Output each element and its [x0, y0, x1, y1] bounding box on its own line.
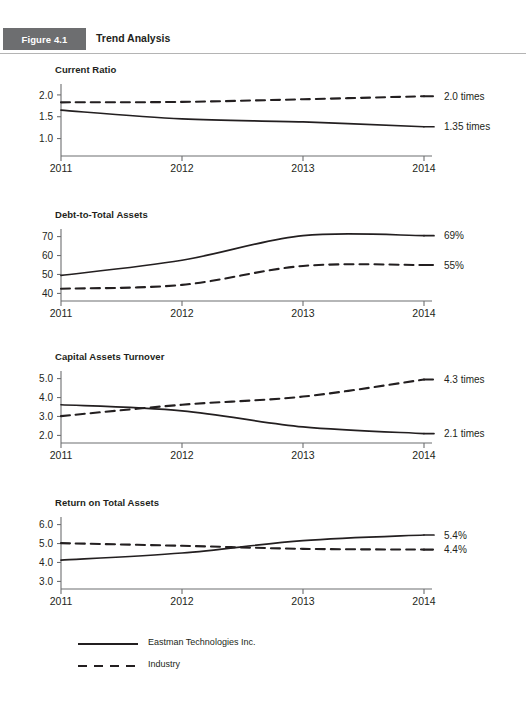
y-axis-tick-label: 2.0	[39, 430, 53, 441]
series-line-industry	[61, 264, 424, 288]
header-divider	[0, 53, 526, 54]
series-line-company	[61, 405, 424, 434]
series-line-industry	[61, 96, 424, 102]
y-axis-tick-label: 70	[42, 231, 54, 242]
x-axis-tick-label: 2013	[291, 595, 315, 606]
page-title: Trend Analysis	[96, 32, 170, 44]
y-axis-tick-label: 60	[42, 250, 54, 261]
chart-plot-area: 5.04.03.02.020112012201320142.1 times4.3…	[0, 365, 526, 460]
figure-number-label: Figure 4.1	[22, 34, 68, 45]
y-axis-tick-label: 5.0	[39, 538, 53, 549]
figure-number-tag: Figure 4.1	[3, 28, 86, 50]
y-axis-tick-label: 4.0	[39, 557, 53, 568]
x-axis-tick-label: 2012	[170, 595, 194, 606]
chart-plot-area: 70605040201120122013201469%55%	[0, 223, 526, 318]
series-end-label: 55%	[444, 260, 464, 271]
x-axis-tick-label: 2013	[291, 449, 315, 460]
x-axis-tick-label: 2012	[170, 162, 194, 173]
series-line-company	[61, 234, 424, 276]
series-end-label: 4.3 times	[444, 374, 485, 385]
x-axis-tick-label: 2012	[170, 307, 194, 318]
x-axis-tick-label: 2011	[50, 595, 73, 606]
chart-title: Debt-to-Total Assets	[55, 209, 148, 220]
x-axis-tick-label: 2014	[412, 162, 436, 173]
y-axis-tick-label: 3.0	[39, 411, 53, 422]
series-line-industry	[61, 380, 424, 417]
y-axis-tick-label: 1.5	[39, 111, 53, 122]
y-axis-tick-label: 1.0	[39, 133, 53, 144]
x-axis-tick-label: 2012	[170, 449, 194, 460]
x-axis-tick-label: 2013	[291, 162, 315, 173]
series-end-label: 69%	[444, 230, 464, 241]
x-axis-tick-label: 2013	[291, 307, 315, 318]
x-axis-tick-label: 2011	[50, 307, 73, 318]
chart-title: Current Ratio	[55, 64, 116, 75]
chart-title: Return on Total Assets	[55, 497, 159, 508]
series-line-company	[61, 110, 424, 127]
y-axis-tick-label: 4.0	[39, 392, 53, 403]
series-end-label: 4.4%	[444, 544, 467, 555]
series-end-label: 2.0 times	[444, 91, 485, 102]
legend-solid-line-icon	[78, 643, 138, 645]
x-axis-tick-label: 2014	[412, 449, 436, 460]
series-end-label: 5.4%	[444, 530, 467, 541]
chart-legend: Eastman Technologies Inc.Industry	[0, 636, 526, 686]
y-axis-tick-label: 6.0	[39, 519, 53, 530]
y-axis-tick-label: 40	[42, 288, 54, 299]
series-end-label: 2.1 times	[444, 428, 485, 439]
legend-label: Industry	[148, 659, 180, 669]
x-axis-tick-label: 2014	[412, 307, 436, 318]
y-axis-tick-label: 3.0	[39, 576, 53, 587]
chart-title: Capital Assets Turnover	[55, 351, 164, 362]
x-axis-tick-label: 2014	[412, 595, 436, 606]
figure-header: Figure 4.1 Trend Analysis	[0, 28, 526, 54]
legend-dashed-line-icon	[78, 665, 138, 667]
legend-label: Eastman Technologies Inc.	[148, 637, 255, 647]
y-axis-tick-label: 50	[42, 269, 54, 280]
chart-plot-area: 2.01.51.020112012201320141.35 times2.0 t…	[0, 78, 526, 173]
x-axis-tick-label: 2011	[50, 449, 73, 460]
series-end-label: 1.35 times	[444, 121, 490, 132]
y-axis-tick-label: 2.0	[39, 90, 53, 101]
x-axis-tick-label: 2011	[50, 162, 73, 173]
y-axis-tick-label: 5.0	[39, 373, 53, 384]
chart-plot-area: 6.05.04.03.020112012201320145.4%4.4%	[0, 511, 526, 606]
